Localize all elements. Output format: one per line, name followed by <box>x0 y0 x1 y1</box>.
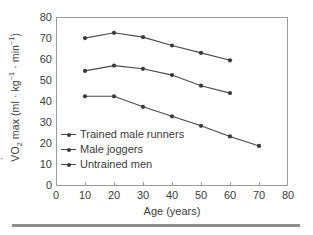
data-point <box>228 58 232 62</box>
y-tick-label-50: 50 <box>30 75 52 86</box>
x-tick-mark-20 <box>114 182 115 186</box>
data-point <box>199 51 203 55</box>
x-tick-label-30: 30 <box>132 190 154 201</box>
data-point <box>170 114 174 118</box>
line-marker-icon <box>61 144 76 155</box>
data-point <box>112 31 116 35</box>
series-male-joggers <box>83 64 232 96</box>
y-axis-title-text: VO2 max (ml · kg−1 · min−1) <box>7 33 24 162</box>
y-tick-label-40: 40 <box>30 96 52 107</box>
legend-item-male-joggers: Male joggers <box>61 142 184 157</box>
x-tick-mark-10 <box>85 182 86 186</box>
y-tick-label-20: 20 <box>30 138 52 149</box>
legend-item-trained-male-runners: Trained male runners <box>61 127 184 142</box>
data-point <box>112 64 116 68</box>
line-marker-icon <box>61 159 76 170</box>
x-tick-label-80: 80 <box>277 190 299 201</box>
x-tick-mark-70 <box>259 182 260 186</box>
x-tick-label-0: 0 <box>45 190 67 201</box>
data-point <box>199 84 203 88</box>
y-axis-title: VO2 max (ml · kg−1 · min−1) <box>0 0 30 195</box>
data-point <box>141 35 145 39</box>
data-point <box>83 36 87 40</box>
line-marker-icon <box>61 129 76 140</box>
data-point <box>83 94 87 98</box>
y-tick-label-30: 30 <box>30 117 52 128</box>
y-tick-label-80: 80 <box>30 12 52 23</box>
series-trained-male-runners <box>83 31 232 63</box>
footer-divider <box>12 224 300 227</box>
data-point <box>199 124 203 128</box>
data-point <box>141 67 145 71</box>
data-point <box>170 73 174 77</box>
data-point <box>257 144 261 148</box>
data-point <box>83 69 87 73</box>
y-tick-label-60: 60 <box>30 54 52 65</box>
y-tick-label-70: 70 <box>30 33 52 44</box>
x-tick-mark-60 <box>230 182 231 186</box>
x-tick-label-60: 60 <box>219 190 241 201</box>
x-tick-label-10: 10 <box>74 190 96 201</box>
series-line-trained-male-runners <box>85 33 230 61</box>
data-point <box>228 91 232 95</box>
legend-item-label: Untrained men <box>80 159 152 170</box>
x-tick-mark-40 <box>172 182 173 186</box>
v-dot-accent: V <box>8 155 20 162</box>
figure-container: VO2 max (ml · kg−1 · min−1) 80 70 60 50 … <box>0 0 313 235</box>
data-point <box>112 94 116 98</box>
x-tick-mark-30 <box>143 182 144 186</box>
data-point <box>141 105 145 109</box>
x-tick-label-40: 40 <box>161 190 183 201</box>
legend-item-untrained-men: Untrained men <box>61 157 184 172</box>
x-tick-label-50: 50 <box>190 190 212 201</box>
x-tick-label-20: 20 <box>103 190 125 201</box>
legend-item-label: Trained male runners <box>80 129 184 140</box>
x-tick-label-70: 70 <box>248 190 270 201</box>
x-tick-mark-50 <box>201 182 202 186</box>
x-axis-title: Age (years) <box>56 205 288 217</box>
data-point <box>170 43 174 47</box>
y-tick-label-10: 10 <box>30 159 52 170</box>
legend: Trained male runners Male joggers Untrai… <box>61 127 184 172</box>
series-line-male-joggers <box>85 66 230 94</box>
legend-item-label: Male joggers <box>80 144 143 155</box>
data-point <box>228 134 232 138</box>
